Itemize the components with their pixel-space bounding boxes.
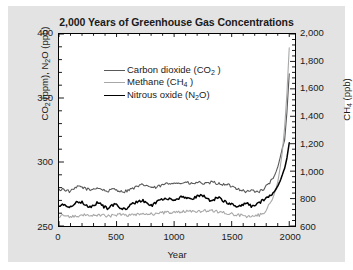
legend-item-label: Nitrous oxide (N2O) <box>127 89 210 103</box>
chart-title: 2,000 Years of Greenhouse Gas Concentrat… <box>8 16 345 28</box>
chart-figure: 2,000 Years of Greenhouse Gas Concentrat… <box>8 6 345 262</box>
legend-item-label: Methane (CH4 ) <box>127 76 193 90</box>
legend-item: Carbon dioxide (CO2 ) <box>104 64 221 77</box>
legend-line-swatch <box>104 95 125 96</box>
legend-line-swatch <box>104 82 125 83</box>
legend-line-swatch <box>104 70 125 71</box>
y-axis-right-tick-label: 2,000 <box>300 27 346 38</box>
chart-legend: Carbon dioxide (CO2 )Methane (CH4 )Nitro… <box>104 64 221 102</box>
x-axis-tick-label: 2000 <box>265 231 315 242</box>
x-axis-tick-label: 1000 <box>149 231 199 242</box>
x-axis-title: Year <box>58 249 296 260</box>
y-axis-right-tick-label: 1,800 <box>300 55 346 66</box>
series-line <box>59 143 289 210</box>
y-axis-right-tick-label: 1,000 <box>300 166 346 177</box>
y-axis-left-tick-label: 300 <box>5 156 53 167</box>
y-axis-left-tick-label: 350 <box>5 92 53 103</box>
y-axis-right-tick-label: 1,400 <box>300 110 346 121</box>
x-axis-tick-label: 0 <box>33 231 83 242</box>
x-axis-tick-label: 500 <box>91 231 141 242</box>
y-axis-left-tick-label: 400 <box>5 27 53 38</box>
legend-item: Methane (CH4 ) <box>104 77 221 90</box>
x-axis-tick-label: 1500 <box>207 231 257 242</box>
y-axis-right-tick-label: 800 <box>300 193 346 204</box>
y-axis-left-title-text: CO2 (ppm), N2O (ppb) <box>39 27 50 121</box>
legend-item-label: Carbon dioxide (CO2 ) <box>127 64 221 78</box>
y-axis-left-title: CO2 (ppm), N2O (ppb) <box>39 0 50 158</box>
y-axis-right-tick-label: 1,600 <box>300 82 346 93</box>
y-axis-right-tick-label: 1,200 <box>300 138 346 149</box>
legend-item: Nitrous oxide (N2O) <box>104 89 221 102</box>
plot-area <box>58 33 296 227</box>
